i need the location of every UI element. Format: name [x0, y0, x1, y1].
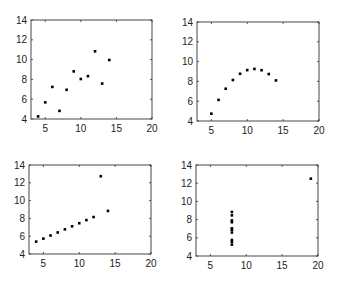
y-tick-label: 12	[181, 178, 193, 189]
scatter-panel-top-left: 5101520468101214	[16, 15, 158, 135]
scatter-panel-bottom-left: 5101520468101214	[14, 160, 157, 270]
data-point	[310, 177, 313, 180]
y-tick-label: 6	[21, 94, 27, 105]
anscombe-quartet-figure: 5101520468101214510152046810121451015204…	[0, 0, 338, 283]
x-tick-label: 5	[208, 260, 214, 271]
data-point	[37, 115, 40, 118]
y-tick-label: 12	[182, 36, 194, 47]
y-tick-label: 14	[181, 160, 193, 171]
y-tick-label: 4	[19, 249, 25, 260]
scatter-panel-bottom-right: 5101520468101214	[181, 160, 324, 272]
data-point	[65, 88, 68, 91]
axes-frame	[29, 165, 151, 254]
y-tick-label: 10	[181, 196, 193, 207]
data-point	[232, 79, 235, 82]
y-tick-label: 14	[16, 15, 28, 26]
data-point	[42, 237, 45, 240]
data-point	[217, 99, 220, 102]
x-tick-label: 10	[74, 258, 86, 269]
data-point	[231, 231, 234, 234]
y-tick-label: 14	[182, 17, 194, 28]
data-point	[231, 219, 234, 222]
x-tick-label: 15	[278, 125, 290, 136]
data-point	[231, 228, 234, 231]
x-tick-label: 5	[209, 125, 215, 136]
data-point	[253, 68, 256, 71]
y-tick-label: 14	[14, 160, 26, 171]
axes-frame	[197, 22, 319, 121]
y-tick-label: 8	[187, 76, 193, 87]
data-point	[64, 228, 67, 231]
data-point	[108, 59, 111, 62]
y-tick-label: 10	[182, 56, 194, 67]
y-tick-label: 6	[187, 96, 193, 107]
data-point	[267, 73, 270, 76]
x-tick-label: 15	[277, 260, 289, 271]
y-tick-label: 12	[14, 177, 26, 188]
data-point	[87, 75, 90, 78]
x-tick-label: 10	[241, 260, 253, 271]
y-tick-label: 8	[21, 74, 27, 85]
data-point	[80, 78, 83, 81]
data-point	[94, 50, 97, 53]
y-tick-label: 4	[186, 251, 192, 262]
data-point	[49, 234, 52, 237]
data-point	[246, 69, 249, 72]
data-point	[99, 175, 102, 178]
data-point	[275, 79, 278, 82]
data-point	[210, 112, 213, 115]
y-tick-label: 4	[187, 116, 193, 127]
x-tick-label: 15	[111, 123, 123, 134]
y-tick-label: 6	[19, 231, 25, 242]
y-tick-label: 8	[186, 214, 192, 225]
axes-frame	[196, 165, 318, 256]
data-point	[72, 70, 75, 73]
x-tick-label: 20	[312, 260, 324, 271]
data-point	[107, 210, 110, 213]
y-tick-label: 6	[186, 232, 192, 243]
y-tick-label: 12	[16, 34, 28, 45]
data-point	[231, 241, 234, 244]
x-tick-label: 20	[313, 125, 325, 136]
y-tick-label: 4	[21, 114, 27, 125]
x-tick-label: 20	[146, 123, 158, 134]
data-point	[260, 69, 263, 72]
x-tick-label: 10	[75, 123, 87, 134]
y-tick-label: 10	[14, 195, 26, 206]
data-point	[56, 231, 59, 234]
data-point	[58, 110, 61, 113]
data-point	[92, 216, 95, 219]
x-tick-label: 15	[110, 258, 122, 269]
data-point	[35, 240, 38, 243]
x-tick-label: 20	[145, 258, 157, 269]
data-point	[231, 214, 234, 217]
x-tick-label: 5	[42, 123, 48, 134]
y-tick-label: 8	[19, 213, 25, 224]
x-tick-label: 5	[41, 258, 47, 269]
axes-frame	[31, 20, 152, 119]
data-point	[231, 211, 234, 214]
data-point	[101, 82, 104, 85]
data-point	[44, 101, 47, 104]
data-point	[224, 87, 227, 90]
x-tick-label: 10	[242, 125, 254, 136]
y-tick-label: 10	[16, 54, 28, 65]
data-point	[71, 225, 74, 228]
data-point	[78, 222, 81, 225]
scatter-panel-top-right: 5101520468101214	[182, 17, 325, 137]
data-point	[51, 86, 54, 89]
data-point	[239, 72, 242, 75]
data-point	[85, 219, 88, 222]
data-point	[231, 243, 234, 246]
